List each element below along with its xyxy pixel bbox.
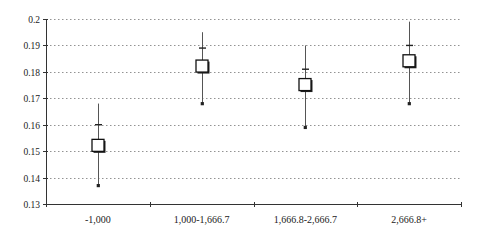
chart: 0.130.140.150.160.170.180.190.2 -1,0001,… [0, 0, 485, 233]
box-marker [299, 79, 311, 91]
x-tick-label: -1,000 [85, 214, 111, 225]
y-tick-label: 0.17 [23, 94, 40, 104]
low-marker [201, 102, 204, 105]
y-tick-label: 0.19 [23, 41, 40, 51]
y-axis: 0.130.140.150.160.170.180.190.2 [23, 15, 48, 210]
low-marker [97, 184, 100, 187]
x-tick-label: 1,000-1,666.7 [174, 214, 230, 225]
y-tick-label: 0.14 [23, 174, 40, 184]
box-marker [92, 139, 104, 151]
gridlines [46, 20, 461, 179]
low-marker [304, 126, 307, 129]
data-point [196, 32, 210, 105]
x-axis: -1,0001,000-1,666.71,666.8-2,666.72,666.… [46, 202, 462, 225]
data-point [403, 22, 417, 106]
data-point [299, 45, 313, 129]
x-tick-label: 1,666.8-2,666.7 [274, 214, 337, 225]
y-tick-label: 0.13 [23, 200, 40, 210]
data-point [92, 104, 106, 188]
box-marker [403, 55, 415, 67]
y-tick-label: 0.15 [23, 147, 40, 157]
box-marker [196, 60, 208, 72]
low-marker [408, 102, 411, 105]
y-tick-label: 0.2 [28, 15, 40, 25]
y-tick-label: 0.18 [23, 68, 40, 78]
x-tick-label: 2,666.8+ [391, 214, 427, 225]
y-tick-label: 0.16 [23, 121, 40, 131]
data-points [92, 22, 417, 188]
